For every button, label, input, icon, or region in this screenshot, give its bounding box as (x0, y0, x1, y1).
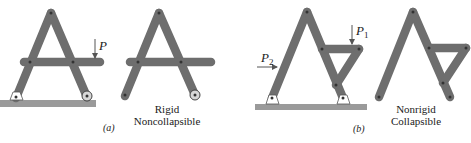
pin-joint (378, 96, 381, 99)
panel-b-free-frame: NonrigidCollapsible (378, 11, 468, 128)
member-fill (336, 49, 359, 85)
pin-joint (449, 96, 452, 99)
pin-joint (321, 48, 324, 51)
member-fill (443, 48, 466, 83)
pin-joint (137, 61, 140, 64)
pin-joint (335, 84, 338, 87)
pin-joint (358, 48, 361, 51)
member-fill (272, 12, 307, 98)
panel-a-free-frame: RigidNoncollapsible (124, 12, 212, 128)
label-nonrigid: Nonrigid (396, 103, 436, 115)
pin-joint (180, 61, 183, 64)
pin-joint (72, 61, 75, 64)
panel-b-frame: P1P2(b) (255, 11, 368, 136)
caption-b: (b) (353, 123, 365, 135)
pin-joint (465, 47, 468, 50)
caption-a: (a) (103, 122, 115, 134)
pin-joint (342, 97, 345, 100)
member-fill (16, 13, 51, 98)
member-fill (379, 12, 413, 97)
label-rigid: Rigid (155, 103, 180, 115)
member-fill (51, 13, 87, 97)
pin-joint (124, 94, 127, 97)
label-collapsible: Collapsible (391, 115, 441, 127)
frame-rigidity-figure: P(a) RigidNoncollapsible P1 (0, 0, 471, 143)
pin-joint (306, 11, 309, 14)
member-fill (125, 13, 159, 96)
load-label-p: P (98, 38, 107, 53)
pin-joint (442, 82, 445, 85)
load-label-p2: P2 (260, 50, 273, 67)
pin-joint (412, 11, 415, 14)
label-noncollapsible: Noncollapsible (134, 115, 201, 127)
diagram-canvas: P(a) RigidNoncollapsible P1 (0, 0, 471, 143)
pin-joint (50, 12, 53, 15)
ground-b (255, 104, 367, 110)
pin-joint (194, 94, 197, 97)
load-label-p1: P1 (355, 23, 368, 40)
pin-joint (271, 97, 274, 100)
pin-joint (15, 96, 18, 99)
pin-joint (158, 12, 161, 15)
pin-joint (428, 47, 431, 50)
pin-joint (86, 95, 89, 98)
pin-joint (29, 61, 32, 64)
member-fill (159, 13, 195, 95)
panel-a-frame: P(a) (0, 12, 115, 135)
